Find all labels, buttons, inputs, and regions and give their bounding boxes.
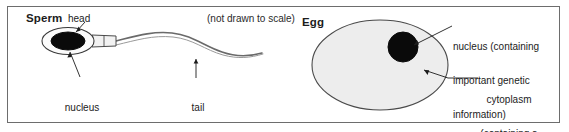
sperm-panel-title: Sperm	[26, 12, 62, 25]
egg-panel-title: Egg	[302, 16, 324, 29]
sperm-tail-caption: tail (to allow sperm to swim towards the…	[139, 80, 257, 132]
egg-cytoplasm-caption-line1: cytoplasm	[459, 94, 559, 105]
sperm-nucleus-caption-line1: nucleus	[19, 102, 145, 113]
not-to-scale-note: (not drawn to scale)	[207, 13, 295, 24]
sperm-head-label: head	[68, 13, 90, 24]
sperm-and-egg-diagram: Sperm head (not drawn to scale) nucleus …	[0, 0, 569, 132]
egg-cytoplasm-caption-line2: (containing a	[459, 128, 559, 132]
egg-cytoplasm-caption: cytoplasm (containing a large food store…	[459, 72, 559, 132]
sperm-tail-caption-line1: tail	[139, 102, 257, 113]
sperm-nucleus-caption: nucleus (containing important genetic in…	[19, 80, 145, 132]
egg-nucleus-caption-line1: nucleus (containing	[453, 41, 539, 52]
